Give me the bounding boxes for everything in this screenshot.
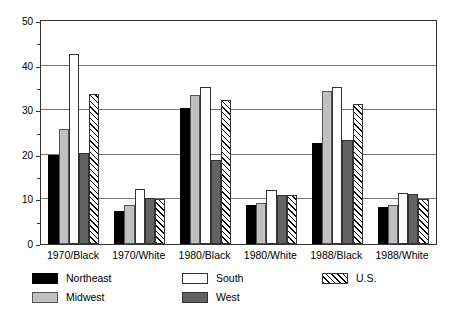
- x-axis-label: 1988/Black: [303, 248, 369, 262]
- y-tick-label: 20: [22, 149, 33, 162]
- bar-us: [287, 195, 297, 245]
- legend-label: U.S.: [356, 272, 376, 285]
- bar-south: [398, 193, 408, 244]
- legend-label: South: [216, 272, 243, 285]
- bar-us: [418, 199, 428, 244]
- bars-layer: [41, 21, 436, 244]
- bar-midwest: [388, 205, 398, 244]
- bar-northeast: [378, 207, 388, 244]
- bar-us: [155, 199, 165, 244]
- x-axis-label: 1980/Black: [172, 248, 238, 262]
- legend-label: West: [216, 291, 240, 304]
- legend-label: Northeast: [66, 272, 112, 285]
- bar-group: [173, 21, 239, 244]
- bar-northeast: [114, 211, 124, 244]
- legend-item-midwest[interactable]: Midwest: [32, 290, 105, 305]
- y-axis: 01020304050: [0, 20, 40, 245]
- bar-us: [89, 94, 99, 244]
- bar-northeast: [246, 205, 256, 244]
- bar-south: [135, 189, 145, 244]
- bar-midwest: [59, 129, 69, 244]
- bar-south: [266, 190, 276, 244]
- legend: NortheastMidwestSouthWestU.S.: [32, 271, 432, 311]
- legend-swatch-midwest: [32, 292, 58, 303]
- legend-item-northeast[interactable]: Northeast: [32, 271, 112, 286]
- bar-group: [41, 21, 107, 244]
- bar-chart: 01020304050 1970/Black1970/White1980/Bla…: [0, 0, 454, 317]
- bar-west: [211, 160, 221, 244]
- bar-midwest: [190, 95, 200, 244]
- y-tick-label: 10: [22, 193, 33, 206]
- legend-swatch-south: [182, 273, 208, 284]
- bar-midwest: [124, 205, 134, 244]
- bar-northeast: [180, 108, 190, 244]
- tick-mark: [36, 245, 40, 246]
- x-axis-label: 1980/White: [238, 248, 304, 262]
- x-axis-labels: 1970/Black1970/White1980/Black1980/White…: [40, 248, 437, 264]
- bar-group: [370, 21, 436, 244]
- bar-group: [304, 21, 370, 244]
- bar-south: [69, 54, 79, 244]
- y-tick-label: 30: [22, 104, 33, 117]
- legend-swatch-us: [322, 273, 348, 284]
- bar-northeast: [48, 155, 58, 244]
- bar-south: [200, 87, 210, 244]
- bar-south: [332, 87, 342, 244]
- bar-west: [408, 194, 418, 244]
- bar-west: [277, 195, 287, 245]
- bar-west: [79, 153, 89, 244]
- legend-item-south[interactable]: South: [182, 271, 243, 286]
- legend-swatch-northeast: [32, 273, 58, 284]
- y-tick-label: 50: [22, 15, 33, 28]
- bar-west: [342, 140, 352, 244]
- bar-group: [239, 21, 305, 244]
- y-tick-label: 40: [22, 60, 33, 73]
- bar-us: [221, 100, 231, 244]
- x-axis-label: 1988/White: [369, 248, 435, 262]
- bar-midwest: [322, 91, 332, 244]
- legend-item-us[interactable]: U.S.: [322, 271, 376, 286]
- bar-us: [353, 104, 363, 244]
- bar-northeast: [312, 143, 322, 244]
- x-axis-label: 1970/Black: [40, 248, 106, 262]
- legend-swatch-west: [182, 292, 208, 303]
- legend-item-west[interactable]: West: [182, 290, 240, 305]
- bar-west: [145, 198, 155, 244]
- bar-group: [107, 21, 173, 244]
- y-tick-label: 0: [27, 238, 33, 251]
- x-axis-label: 1970/White: [106, 248, 172, 262]
- bar-midwest: [256, 203, 266, 244]
- legend-label: Midwest: [66, 291, 105, 304]
